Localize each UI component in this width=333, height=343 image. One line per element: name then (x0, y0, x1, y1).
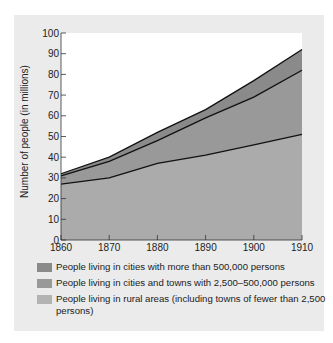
legend-label: People living in cities with more than 5… (56, 261, 285, 273)
x-tick-label: 1860 (50, 242, 73, 253)
y-tick-label: 100 (42, 28, 59, 39)
legend-swatch-dark (37, 263, 52, 272)
y-tick-label: 60 (48, 110, 60, 121)
x-tick-label: 1870 (98, 242, 121, 253)
x-tick-label: 1900 (243, 242, 266, 253)
y-tick-label: 80 (48, 69, 60, 80)
y-tick-label: 90 (48, 48, 60, 59)
y-tick-label: 30 (48, 172, 60, 183)
legend-item-towns: People living in cities and towns with 2… (37, 277, 327, 289)
area-chart: 0102030405060708090100186018701880189019… (0, 0, 333, 260)
y-axis-label: Number of people (in millions) (19, 62, 30, 202)
legend-label: People living in rural areas (including … (56, 293, 327, 317)
legend-swatch-medium (37, 279, 52, 288)
x-tick-label: 1890 (194, 242, 217, 253)
y-tick-label: 50 (48, 131, 60, 142)
legend-item-rural: People living in rural areas (including … (37, 293, 327, 317)
y-tick-label: 70 (48, 90, 60, 101)
y-tick-label: 20 (48, 193, 60, 204)
legend-item-large-cities: People living in cities with more than 5… (37, 261, 327, 273)
y-tick-label: 40 (48, 152, 60, 163)
legend-label: People living in cities and towns with 2… (56, 277, 315, 289)
x-tick-label: 1910 (291, 242, 314, 253)
y-tick-label: 10 (48, 214, 60, 225)
legend: People living in cities with more than 5… (37, 261, 327, 321)
legend-swatch-light (37, 295, 52, 304)
x-tick-label: 1880 (146, 242, 169, 253)
